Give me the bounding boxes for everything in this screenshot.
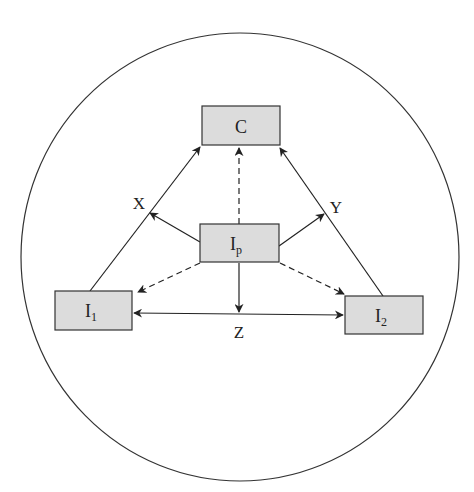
edge-ip-to-y [279, 214, 324, 246]
node-i1-subscript: 1 [91, 310, 97, 324]
node-c: C [202, 106, 280, 145]
edge-i1-i2-bidirectional [134, 313, 343, 315]
label-x: X [133, 194, 145, 213]
edge-ip-to-i1-dashed [138, 263, 200, 292]
edge-ip-to-i2-dashed [280, 263, 344, 294]
node-i1: I1 [55, 291, 132, 330]
edge-i2-to-c [280, 148, 383, 296]
label-z: Z [234, 323, 244, 342]
node-ip: Ip [200, 224, 279, 262]
node-c-label: C [235, 117, 247, 137]
label-y: Y [330, 198, 342, 217]
node-i2: I2 [345, 296, 423, 334]
svg-text:C: C [235, 117, 247, 137]
edge-ip-to-x [150, 213, 200, 242]
node-ip-subscript: p [236, 243, 242, 257]
node-i2-subscript: 2 [381, 315, 387, 329]
edge-i1-to-c [90, 147, 200, 291]
diagram-canvas: C Ip I1 I2 X Y Z [0, 0, 474, 492]
